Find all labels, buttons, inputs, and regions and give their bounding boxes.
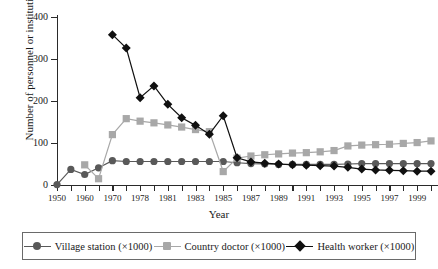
legend-label: Country doctor (×1000) [185,241,285,252]
data-point [303,149,310,156]
series-2 [81,115,434,182]
data-point [123,158,130,165]
data-point [260,159,269,168]
x-axis-title: Year [0,208,438,220]
data-point [109,131,116,138]
data-point [330,147,337,154]
legend-item-3: Health worker (×1000) [286,241,414,252]
circle-marker-icon [24,241,51,252]
y-axis-title: Number of personnel or institutions [23,0,35,148]
data-point [81,171,88,178]
data-point [372,141,379,148]
data-point [317,148,324,155]
data-point [67,166,74,173]
data-point [178,123,185,130]
data-point [137,158,144,165]
chart-legend: Village station (×1000)Country doctor (×… [22,232,416,260]
data-point [261,151,268,158]
data-point [150,158,157,165]
data-point [427,167,436,176]
data-point [414,139,421,146]
data-point [358,142,365,149]
data-point [81,161,88,168]
data-point [386,141,393,148]
data-point [413,167,422,176]
series-line [112,35,431,172]
data-point [219,111,228,120]
data-point [178,158,185,165]
legend-label: Health worker (×1000) [317,241,414,252]
data-point [123,115,130,122]
data-point [316,161,325,170]
data-point [275,150,282,157]
data-point [206,158,213,165]
series-plot [0,0,438,200]
data-point [427,160,434,167]
data-point [399,166,408,175]
data-point [288,160,297,169]
chart-figure: 0100200300400 19501960197019781981198319… [0,0,438,269]
data-point [371,165,380,174]
data-point [53,181,60,188]
data-point [164,121,171,128]
series-1 [53,157,434,188]
data-point [302,161,311,170]
data-point [164,158,171,165]
data-point [137,118,144,125]
data-point [414,160,421,167]
data-point [289,149,296,156]
data-point [150,119,157,126]
legend-item-1: Village station (×1000) [24,241,152,252]
data-point [274,160,283,169]
data-point [427,137,434,144]
data-point [109,157,116,164]
legend-item-2: Country doctor (×1000) [154,241,285,252]
data-point [400,140,407,147]
data-point [357,165,366,174]
square-marker-icon [154,241,181,252]
legend-label: Village station (×1000) [55,241,152,252]
data-point [220,168,227,175]
data-point [400,160,407,167]
data-point [385,166,394,175]
data-point [95,175,102,182]
data-point [344,142,351,149]
diamond-marker-icon [286,241,313,252]
data-point [192,158,199,165]
